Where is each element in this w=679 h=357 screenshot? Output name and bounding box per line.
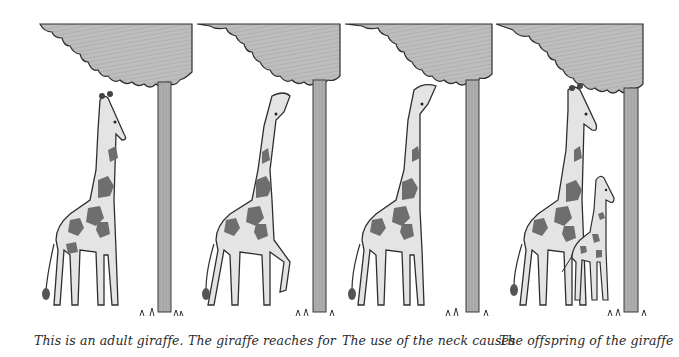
illustration-panels [0, 0, 679, 330]
long-necked-giraffe [510, 83, 597, 305]
caption-panel-1: This is an adult giraffe. [34, 333, 184, 348]
reaching-giraffe [202, 93, 290, 305]
panel-2 [197, 24, 340, 316]
tree-trunk [313, 80, 326, 312]
caption-panel-3: The use of the neck causes [342, 333, 516, 348]
panel-1 [40, 24, 192, 316]
tree-canopy [345, 24, 492, 85]
stretching-giraffe [348, 85, 436, 305]
caption-panel-4: The offspring of the giraffe [499, 333, 673, 348]
panel-4 [496, 24, 646, 316]
tree-canopy [40, 24, 192, 87]
tree-canopy [197, 24, 340, 85]
panel-3 [345, 24, 492, 316]
giraffe-evolution-illustration: This is an adult giraffe. The giraffe re… [0, 0, 679, 357]
caption-panel-2: The giraffe reaches for [188, 333, 336, 348]
tree-trunk [466, 80, 479, 312]
adult-giraffe [42, 91, 126, 305]
tree-trunk [158, 82, 171, 312]
tree-canopy [496, 24, 643, 93]
tree-trunk [624, 88, 638, 312]
